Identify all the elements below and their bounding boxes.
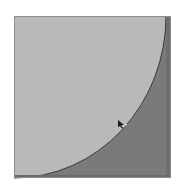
diagram-canvas (0, 0, 182, 191)
quarter-circle-diagram (0, 0, 182, 191)
